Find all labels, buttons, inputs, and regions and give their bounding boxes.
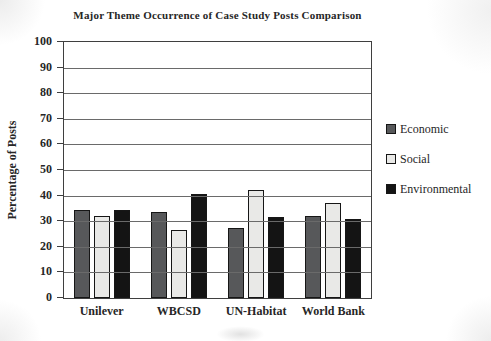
gridline — [64, 93, 371, 94]
legend-swatch — [386, 124, 396, 134]
plot-area — [63, 41, 372, 299]
y-tick-label: 30 — [0, 213, 52, 227]
bar-environmental — [345, 219, 361, 298]
bar-economic — [305, 216, 321, 298]
bar-economic — [151, 212, 167, 298]
bar-environmental — [268, 217, 284, 298]
legend-label: Environmental — [400, 182, 471, 196]
chart-canvas: Major Theme Occurrence of Case Study Pos… — [0, 0, 491, 341]
legend-item: Social — [386, 152, 471, 166]
y-axis-tick-labels: 0102030405060708090100 — [0, 41, 52, 297]
gridline — [64, 119, 371, 120]
legend: EconomicSocialEnvironmental — [386, 122, 471, 212]
bar-economic — [74, 210, 90, 298]
gridline — [64, 272, 371, 273]
bar-social — [94, 216, 110, 298]
x-axis-label: WBCSD — [140, 304, 217, 319]
y-tick-label: 0 — [0, 290, 52, 304]
x-axis-label: World Bank — [295, 304, 372, 319]
y-tick-label: 40 — [0, 188, 52, 202]
bar-social — [248, 190, 264, 298]
gridline — [64, 170, 371, 171]
y-tick-label: 20 — [0, 239, 52, 253]
y-tick-label: 50 — [0, 162, 52, 176]
y-tick-label: 70 — [0, 111, 52, 125]
bar-economic — [228, 228, 244, 298]
y-tick-label: 60 — [0, 136, 52, 150]
gridline — [64, 196, 371, 197]
legend-label: Economic — [400, 122, 449, 136]
gridline — [64, 68, 371, 69]
bar-social — [325, 203, 341, 298]
bar-environmental — [114, 210, 130, 298]
gridline — [64, 247, 371, 248]
y-tick-label: 10 — [0, 264, 52, 278]
y-tick-label: 100 — [0, 34, 52, 48]
x-axis-label: UN-Habitat — [218, 304, 295, 319]
y-tick-label: 80 — [0, 85, 52, 99]
bar-social — [171, 230, 187, 298]
legend-item: Environmental — [386, 182, 471, 196]
legend-swatch — [386, 184, 396, 194]
y-tick-label: 90 — [0, 60, 52, 74]
legend-swatch — [386, 154, 396, 164]
gridline — [64, 221, 371, 222]
x-axis-label: Unilever — [63, 304, 140, 319]
x-axis-labels: UnileverWBCSDUN-HabitatWorld Bank — [63, 304, 372, 319]
legend-item: Economic — [386, 122, 471, 136]
chart-title: Major Theme Occurrence of Case Study Pos… — [63, 9, 372, 21]
legend-label: Social — [400, 152, 430, 166]
gridline — [64, 144, 371, 145]
